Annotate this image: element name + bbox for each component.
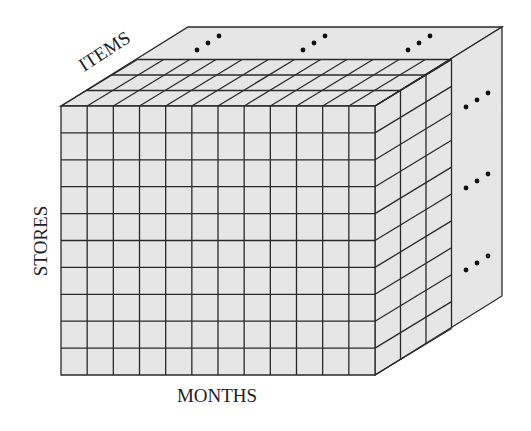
months-axis-label: MONTHS: [177, 385, 257, 406]
cube-faces: [61, 27, 502, 375]
stores-axis-label: STORES: [30, 206, 51, 276]
data-cube-diagram: ITEMS STORES MONTHS: [0, 0, 531, 431]
